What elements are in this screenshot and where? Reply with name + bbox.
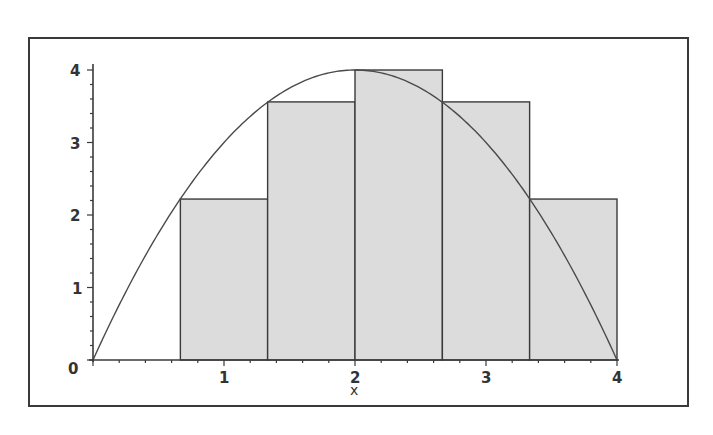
y-tick-label-1: 1 [72,280,82,298]
y-tick-label-0: 0 [68,360,78,378]
bar-3 [355,70,442,360]
y-tick-label-3: 3 [70,135,80,153]
bar-4 [442,102,529,360]
x-tick-label-3: 3 [481,369,491,387]
bar-2 [268,102,355,360]
chart: 0 1 2 3 4 1 2 3 4 x [0,0,713,435]
y-tick-label-4: 4 [70,62,80,80]
bar-5 [530,199,617,360]
x-tick-label-4: 4 [612,369,622,387]
y-tick-label-2: 2 [70,207,80,225]
x-tick-label-1: 1 [219,369,229,387]
bar-1 [180,199,267,360]
x-axis-label: x [350,382,358,398]
